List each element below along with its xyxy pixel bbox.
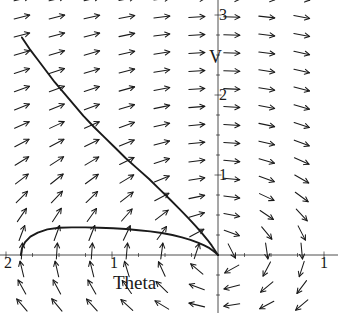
y-tick-label-2: 2 bbox=[219, 87, 227, 103]
x-tick-label-neg1: 1 bbox=[110, 255, 118, 271]
y-tick-label-3: 3 bbox=[219, 7, 227, 23]
x-tick-label-pos1: 1 bbox=[320, 255, 328, 271]
axis-ticks bbox=[6, 0, 324, 295]
direction-field-canvas bbox=[0, 0, 338, 313]
axis-lines bbox=[0, 0, 338, 313]
y-axis-label: V bbox=[209, 48, 222, 66]
x-tick-label-neg2: 2 bbox=[4, 255, 12, 271]
x-axis-label: Theta bbox=[113, 273, 156, 292]
field-arrows bbox=[14, 0, 310, 311]
y-tick-label-1: 1 bbox=[219, 167, 227, 183]
phase-portrait-figure: Theta V 2 1 1 1 2 3 bbox=[0, 0, 338, 313]
